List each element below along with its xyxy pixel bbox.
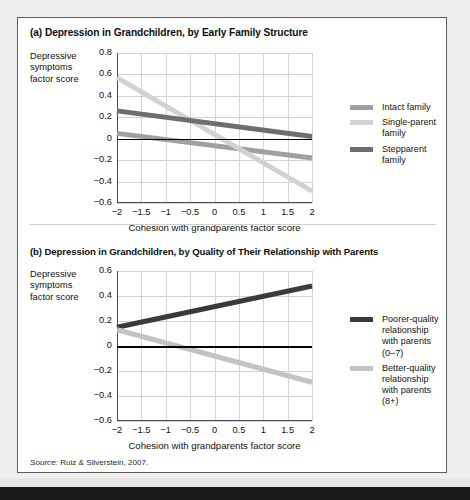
panel-a-y-tick-label: 0.6 bbox=[83, 68, 112, 78]
panel-a-zero-reference-line bbox=[117, 139, 312, 141]
source-text: Ruiz & Silverstein, 2007. bbox=[60, 458, 148, 467]
panel-b-legend-label: Poorer-quality relationship with parents… bbox=[382, 314, 446, 359]
panel-b-y-tick-label: 0.6 bbox=[83, 265, 112, 275]
panel-a-y-axis-caption: Depressive symptoms factor score bbox=[30, 51, 79, 85]
panel-a-legend-item[interactable]: Single-parent family bbox=[350, 117, 446, 139]
panel-a-series-layer bbox=[117, 53, 312, 203]
panel-a-legend-label: Intact family bbox=[382, 102, 446, 113]
source-note: Source: Ruiz & Silverstein, 2007. bbox=[30, 458, 148, 467]
panel-a-gridline-vertical bbox=[312, 53, 313, 203]
panel-b-y-tick-label: −0.2 bbox=[83, 365, 112, 375]
panel-b-y-caption-line-3: factor score bbox=[30, 292, 79, 303]
panel-b-y-tick-label: −0.6 bbox=[83, 415, 112, 425]
panel-a-y-tick-label: 0.8 bbox=[83, 47, 112, 57]
panel-b-plot-area: −0.6−0.4−0.200.20.40.6−2−1.5−1−0.500.511… bbox=[117, 271, 312, 421]
panel-a-y-tick-label: 0.2 bbox=[83, 111, 112, 121]
panel-b-series-line bbox=[117, 330, 312, 383]
panel-a-legend-swatch-icon bbox=[350, 120, 373, 125]
panel-a-y-caption-line-1: Depressive bbox=[30, 51, 79, 62]
panel-a-y-caption-line-2: symptoms bbox=[30, 62, 79, 73]
panel-a-legend-swatch-icon bbox=[350, 105, 373, 110]
panel-b-y-tick-label: 0.2 bbox=[83, 315, 112, 325]
panel-b-legend-item[interactable]: Poorer-quality relationship with parents… bbox=[350, 314, 446, 359]
panel-b-y-tick-label: 0.4 bbox=[83, 290, 112, 300]
panel-b-y-axis-caption: Depressive symptoms factor score bbox=[30, 269, 79, 303]
panel-b-y-caption-line-1: Depressive bbox=[30, 269, 79, 280]
panel-a-legend-label: Single-parent family bbox=[382, 117, 446, 139]
panel-b-gridline-vertical bbox=[312, 271, 313, 421]
panel-b-x-axis-label: Cohesion with grandparents factor score bbox=[117, 440, 312, 451]
figure-frame: (a) Depression in Grandchildren, by Earl… bbox=[17, 17, 447, 473]
panel-a-title: (a) Depression in Grandchildren, by Earl… bbox=[30, 27, 308, 38]
panel-a-legend-item[interactable]: Stepparent family bbox=[350, 144, 446, 166]
page-bottom-strip bbox=[0, 478, 470, 487]
panel-divider bbox=[30, 224, 436, 225]
panel-a-y-tick-label: −0.6 bbox=[83, 197, 112, 207]
panel-a-y-caption-line-3: factor score bbox=[30, 74, 79, 85]
panel-a-legend-item[interactable]: Intact family bbox=[350, 102, 446, 113]
panel-a-y-tick-label: 0.4 bbox=[83, 90, 112, 100]
panel-a-legend-label: Stepparent family bbox=[382, 144, 446, 166]
panel-a-legend-swatch-icon bbox=[350, 147, 373, 152]
panel-a-y-tick-label: −0.2 bbox=[83, 154, 112, 164]
panel-b-y-caption-line-2: symptoms bbox=[30, 280, 79, 291]
panel-b-legend-swatch-icon bbox=[350, 317, 373, 322]
panel-b-y-tick-label: −0.4 bbox=[83, 390, 112, 400]
panel-a-x-tick-label: 2 bbox=[296, 207, 328, 217]
panel-a-y-tick-label: 0 bbox=[83, 133, 112, 143]
panel-b-legend: Poorer-quality relationship with parents… bbox=[350, 314, 446, 412]
panel-b-title: (b) Depression in Grandchildren, by Qual… bbox=[30, 246, 378, 257]
panel-b-legend-label: Better-quality relationship with parents… bbox=[382, 363, 446, 408]
panel-b-y-tick-label: 0 bbox=[83, 340, 112, 350]
page-bottom-band bbox=[0, 487, 470, 500]
panel-b-legend-swatch-icon bbox=[350, 366, 373, 371]
panel-a-y-tick-label: −0.4 bbox=[83, 176, 112, 186]
panel-b-series-line bbox=[117, 286, 312, 327]
panel-b-x-tick-label: 2 bbox=[296, 425, 328, 435]
source-prefix: Source: bbox=[30, 458, 58, 467]
panel-a-plot-area: −0.6−0.4−0.200.20.40.60.8−2−1.5−1−0.500.… bbox=[117, 53, 312, 203]
panel-b-zero-reference-line bbox=[117, 346, 312, 348]
panel-a-legend: Intact familySingle-parent familySteppar… bbox=[350, 102, 446, 170]
panel-b-legend-item[interactable]: Better-quality relationship with parents… bbox=[350, 363, 446, 408]
